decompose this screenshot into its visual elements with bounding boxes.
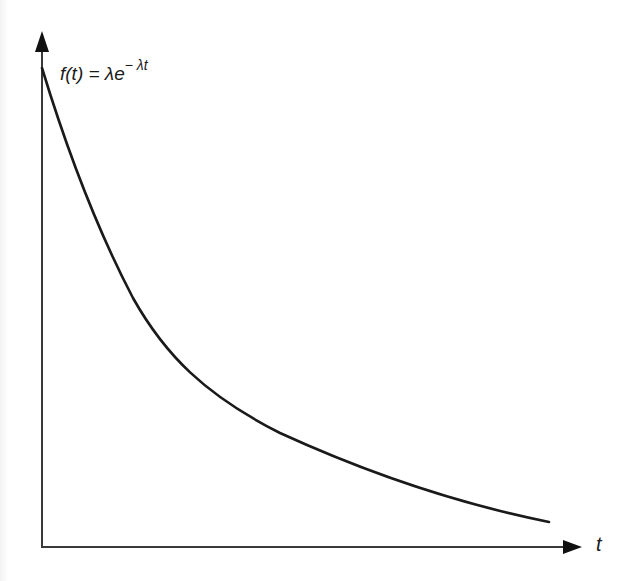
- formula-exponent: − λt: [125, 57, 148, 73]
- chart-canvas: [0, 0, 637, 581]
- exponential-pdf-curve: [42, 68, 549, 522]
- formula-lhs: f(t) = λe: [60, 63, 125, 84]
- formula-label: f(t) = λe− λt: [60, 60, 148, 85]
- y-axis-arrow-icon: [35, 31, 49, 52]
- x-axis-label: t: [596, 533, 602, 556]
- x-axis-arrow-icon: [563, 540, 582, 554]
